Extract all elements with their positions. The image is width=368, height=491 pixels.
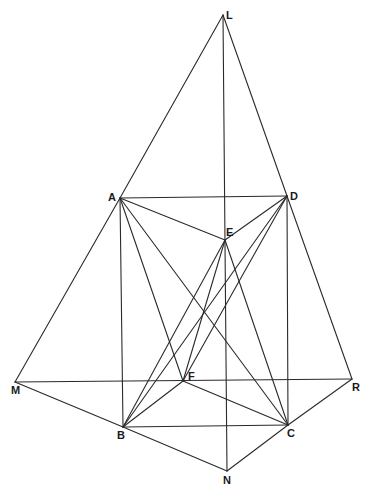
point-label-a: A bbox=[108, 191, 116, 203]
point-label-e: E bbox=[226, 226, 233, 238]
segment-ef bbox=[183, 240, 225, 381]
point-label-f: F bbox=[188, 370, 195, 382]
point-label-c: C bbox=[287, 427, 295, 439]
segment-mb bbox=[15, 382, 123, 427]
segment-group bbox=[15, 15, 352, 471]
segment-ab bbox=[120, 198, 123, 427]
segment-dr bbox=[287, 196, 352, 379]
segment-la bbox=[120, 15, 223, 198]
geometric-diagram: LADEFMRBCN bbox=[0, 0, 368, 491]
segment-bn bbox=[123, 427, 227, 471]
point-label-n: N bbox=[223, 474, 231, 486]
point-label-m: M bbox=[11, 384, 20, 396]
segment-de bbox=[225, 196, 287, 240]
segment-nc bbox=[227, 425, 288, 471]
segment-ad bbox=[120, 196, 287, 198]
segment-af bbox=[120, 198, 183, 381]
segment-dc bbox=[287, 196, 288, 425]
point-label-b: B bbox=[117, 429, 125, 441]
segment-fb bbox=[123, 381, 183, 427]
segment-ec bbox=[225, 240, 288, 425]
segment-db bbox=[123, 196, 287, 427]
segment-bc bbox=[123, 425, 288, 427]
segment-ld bbox=[223, 15, 287, 196]
point-label-r: R bbox=[352, 381, 360, 393]
segment-am bbox=[15, 198, 120, 382]
point-label-l: L bbox=[226, 9, 233, 21]
point-label-d: D bbox=[290, 190, 298, 202]
segment-cr bbox=[288, 379, 352, 425]
diagram-canvas: LADEFMRBCN bbox=[0, 0, 368, 491]
